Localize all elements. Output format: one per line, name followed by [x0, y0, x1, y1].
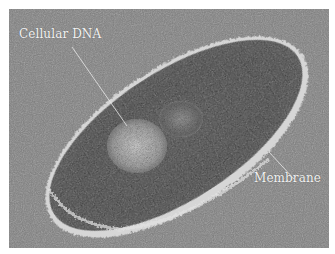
micrograph-photo: [9, 9, 329, 248]
bacterial-cell-image: [9, 9, 329, 248]
label-membrane: Membrane: [254, 171, 321, 185]
label-cellular-dna: Cellular DNA: [19, 27, 101, 41]
secondary-dna-region: [159, 101, 203, 137]
dna-region: [107, 119, 167, 173]
